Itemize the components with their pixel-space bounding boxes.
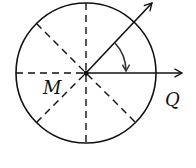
- diagonal-arrow: [86, 3, 152, 73]
- label-m: M: [42, 77, 62, 98]
- rotation-arrow: [115, 43, 126, 71]
- diagram-canvas: M Q: [0, 0, 196, 168]
- label-q: Q: [165, 89, 180, 110]
- center-point: [83, 70, 88, 75]
